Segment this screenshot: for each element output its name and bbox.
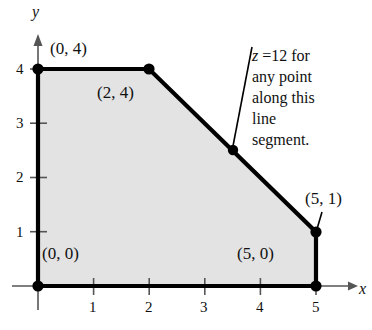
x-tick-label-3: 3 [200,300,208,315]
annotation-text-block: z =12 for any point along this line segm… [252,45,370,151]
y-tick-label-3: 3 [16,116,24,131]
x-axis-label: x [359,281,366,297]
annotation-line-4: line [252,108,370,129]
y-axis-label: y [32,4,39,20]
vertex-5-1-leader-line [317,212,322,229]
y-tick-label-2: 2 [16,170,24,185]
x-tick-label-2: 2 [145,300,153,315]
vertex-label-0-0: (0, 0) [42,245,79,262]
annotated-point-dot [228,145,238,155]
vertex-label-5-1: (5, 1) [305,190,342,207]
annotation-line-1-rest: =12 for [258,47,310,64]
annotation-line-5: segment. [252,129,370,150]
x-tick-label-4: 4 [256,300,264,315]
feasible-region-figure: y x 1 2 3 4 5 1 2 3 4 (0, 4) (2, 4) (5, … [0,0,372,330]
vertex-dot-0-4 [32,63,43,74]
vertex-label-2-4: (2, 4) [97,84,134,101]
vertex-label-5-0: (5, 0) [237,245,274,262]
vertex-dot-2-4 [143,63,154,74]
annotation-leader-line [233,47,252,146]
annotation-line-3: along this [252,87,370,108]
vertex-dot-0-0 [32,280,43,291]
y-axis-arrow-icon [34,34,43,46]
vertex-dot-5-0 [310,280,321,291]
y-tick-label-4: 4 [16,62,24,77]
annotation-line-2: any point [252,66,370,87]
vertex-dot-5-1 [310,226,321,237]
x-axis-arrow-icon [348,282,358,291]
annotation-line-1: z =12 for [252,45,370,66]
x-tick-label-1: 1 [89,300,97,315]
y-tick-label-1: 1 [16,225,24,240]
vertex-label-0-4: (0, 4) [50,40,87,57]
x-tick-label-5: 5 [312,300,320,315]
